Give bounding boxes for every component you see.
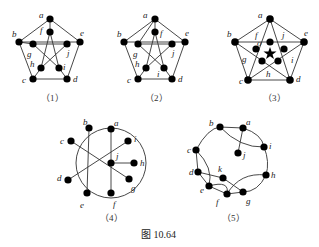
label-i: i [269,141,272,151]
vertex-inner-right [280,45,287,52]
vertex-d [168,75,175,82]
vertex-e [83,189,90,196]
label-h: h [135,59,140,69]
vertex-h [130,159,137,166]
vertex-f [151,28,158,35]
label-i: i [291,55,294,65]
label-f: f [40,25,44,35]
label-d: d [189,167,194,177]
vertex-c [244,76,252,84]
label-j: j [242,150,246,160]
label-d: d [178,74,183,84]
label-c: c [22,75,26,85]
vertex-i [124,137,131,144]
vertex-b [15,38,22,45]
label-a: a [258,10,263,20]
vertex-d [63,75,70,82]
caption-5: （5） [222,213,245,223]
vertex-inner-bottom-left [258,57,265,64]
vertex-e [300,38,308,46]
graph-5: a b c d e f g h i j k （5） [187,117,276,223]
vertex-a [151,15,158,22]
vertex-c [29,75,36,82]
figure-canvas: a b c d e f g h i j （1） [0,0,319,247]
label-e: e [185,28,189,38]
vertex-h [262,171,269,178]
label-g: g [246,196,251,206]
star-icon [264,47,277,59]
label-b: b [83,117,88,127]
vertex-h [142,64,149,71]
vertex-b [120,38,127,45]
vertex-inner-bottom-right [274,57,281,64]
vertex-b [231,38,239,46]
label-c: c [60,136,64,146]
label-j: j [115,151,119,161]
vertex-f [46,28,53,35]
caption-1: （1） [41,93,64,103]
vertex-c [134,75,141,82]
label-i: i [63,62,66,72]
vertex-i [260,143,267,150]
label-f: f [160,28,164,38]
vertex-inner-top [266,38,273,45]
label-h: h [140,158,145,168]
label-h: h [271,170,276,180]
vertex-e [205,182,212,189]
vertex-k [219,174,226,181]
vertex-j [168,40,175,47]
label-a: a [143,10,148,20]
graph-4: a b c d e f g h i j （4） [57,117,146,223]
label-f: f [216,197,220,207]
label-g: g [242,54,247,64]
figure-caption: 图 10.64 [141,229,176,240]
label-d: d [73,74,78,84]
label-g: g [131,183,136,193]
label-c: c [127,75,131,85]
label-j: j [171,48,175,58]
label-c: c [187,145,191,155]
label-d: d [57,173,62,183]
vertex-i [160,64,167,71]
vertex-g [239,188,246,195]
vertex-j [234,149,241,156]
label-b: b [12,29,17,39]
label-b: b [117,29,122,39]
vertex-h [37,64,44,71]
label-h: h [30,59,35,69]
graph-1: a b c d e f g h i j （1） [12,10,84,103]
label-j: j [66,48,70,58]
caption-4: （4） [100,213,123,223]
label-d: d [296,74,301,84]
vertex-a [46,15,53,22]
label-e: e [304,28,308,38]
vertex-c [67,137,74,144]
vertex-e [76,38,83,45]
vertex-c [192,146,199,153]
label-b: b [209,118,214,128]
label-e: e [80,28,84,38]
caption-3: （3） [263,93,286,103]
vertex-b [216,123,223,130]
vertex-g [29,40,36,47]
vertex-d [286,76,294,84]
label-a: a [114,118,119,128]
vertex-f [107,189,114,196]
vertex-j [107,159,114,166]
label-e: e [200,185,204,195]
label-i: i [157,69,160,79]
label-a: a [246,117,251,127]
label-j: j [281,30,285,40]
vertex-d [64,176,71,183]
label-f: f [113,199,117,209]
label-c: c [239,76,243,86]
vertex-g [125,175,132,182]
label-h: h [266,69,271,79]
label-g: g [27,49,32,59]
label-o: o [257,38,262,48]
graph-3: a b c d e f g h i j o （3） [227,10,308,103]
label-g: g [133,49,138,59]
graph-2: a b c d e f g h i j （2） [117,10,189,103]
vertex-g [134,40,141,47]
vertex-j [63,40,70,47]
